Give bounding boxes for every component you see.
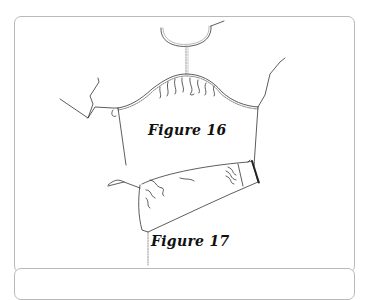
sleeve-icon xyxy=(108,160,259,232)
figure-17-caption: Figure 17 xyxy=(151,233,230,249)
neckline-icon xyxy=(161,21,224,46)
figure-16-caption: Figure 16 xyxy=(148,122,227,138)
sleeve-cap-icon xyxy=(118,74,258,110)
